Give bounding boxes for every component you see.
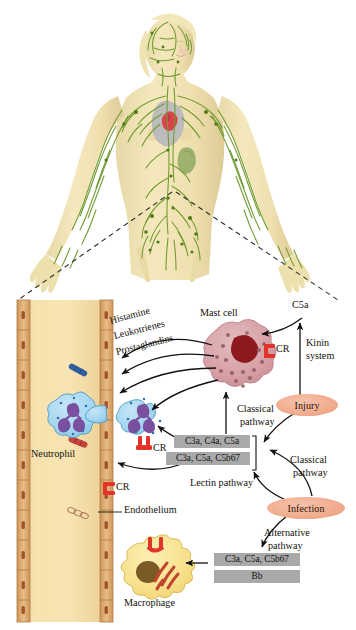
human-body-illustration bbox=[30, 13, 311, 293]
label-kinin-line1: Kinin bbox=[306, 338, 329, 349]
label-neutrophil: Neutrophil bbox=[31, 449, 75, 460]
label-kinin-line2: system bbox=[306, 351, 334, 362]
label-cr-mast-cell: CR bbox=[276, 344, 289, 355]
arrow-infection-lectin bbox=[254, 472, 286, 500]
label-lectin-pathway: Lectin pathway bbox=[190, 478, 253, 489]
label-cr-endothelium: CR bbox=[116, 482, 129, 493]
label-infection: Infection bbox=[288, 503, 325, 514]
label-classical-upper-line2: pathway bbox=[240, 417, 275, 428]
label-c5a: C5a bbox=[292, 300, 308, 311]
label-classical-lower-line2: pathway bbox=[293, 468, 328, 479]
complement-bracket bbox=[252, 436, 256, 470]
stimulus-injury[interactable]: Injury bbox=[276, 394, 338, 416]
label-classical-upper-line1: Classical bbox=[237, 404, 274, 415]
label-mast-cell: Mast cell bbox=[200, 308, 238, 319]
label-alternative-line2: pathway bbox=[268, 541, 303, 552]
macrophage bbox=[121, 535, 195, 600]
label-injury: Injury bbox=[294, 400, 319, 411]
complement-box-lower-1: C3a, C5a, C5b67 bbox=[214, 553, 300, 566]
complement-box-lower-2: Bb bbox=[214, 570, 300, 583]
arrow-prostaglandins bbox=[120, 368, 216, 393]
arrow-mast-to-neutrophil bbox=[152, 380, 218, 410]
complement-box-upper-1: C3a, C4a, C5a bbox=[174, 435, 250, 448]
blood-vessel bbox=[17, 300, 113, 622]
arrow-leukotrienes bbox=[122, 354, 214, 374]
label-alternative-line1: Alternative bbox=[264, 528, 310, 539]
label-classical-lower-line1: Classical bbox=[290, 455, 327, 466]
stimulus-infection[interactable]: Infection bbox=[267, 497, 345, 519]
mast-cell bbox=[203, 319, 276, 387]
label-macrophage: Macrophage bbox=[124, 598, 175, 609]
label-endothelium: Endothelium bbox=[124, 505, 177, 516]
label-cr-neutrophil: CR bbox=[153, 443, 166, 454]
figure-canvas: Histamine Leukotrienes Prostaglandins Ma… bbox=[0, 0, 356, 630]
complement-box-upper-2: C3a, C5a, C5b67 bbox=[166, 452, 250, 465]
cr-receptor-neutrophil bbox=[136, 436, 152, 450]
